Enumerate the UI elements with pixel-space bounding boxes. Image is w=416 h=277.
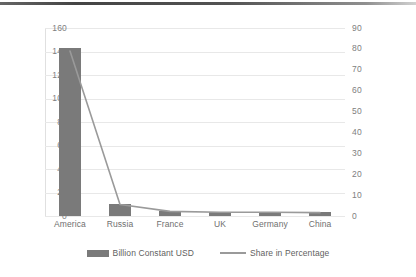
x-axis-tick-label: China (295, 219, 345, 229)
right-axis-tick-label: 30 (352, 148, 392, 158)
right-axis-tick-label: 80 (352, 43, 392, 53)
x-axis-tick-label: Russia (95, 219, 145, 229)
line-series-share-in-percentage (45, 28, 345, 216)
legend-item-billion-constant-usd: Billion Constant USD (87, 248, 194, 258)
right-axis-tick-label: 60 (352, 85, 392, 95)
bar-swatch-icon (87, 250, 109, 257)
right-axis-tick-label: 40 (352, 127, 392, 137)
legend-item-share-in-percentage: Share in Percentage (220, 248, 329, 258)
gridline (45, 216, 345, 217)
legend-label: Billion Constant USD (113, 248, 194, 258)
right-axis-tick-label: 70 (352, 64, 392, 74)
x-axis-tick-label: France (145, 219, 195, 229)
x-axis-tick-label: UK (195, 219, 245, 229)
right-axis-tick-label: 90 (352, 23, 392, 33)
legend-label: Share in Percentage (250, 248, 329, 258)
x-axis-tick-label: America (45, 219, 95, 229)
plot-area (45, 28, 345, 216)
chart-legend: Billion Constant USD Share in Percentage (0, 248, 416, 258)
right-axis-tick-label: 10 (352, 190, 392, 200)
line-swatch-icon (220, 252, 246, 254)
right-axis-tick-label: 20 (352, 169, 392, 179)
chart-figure: 020406080100120140160 010203040506070809… (0, 0, 416, 277)
x-axis-tick-label: Germany (245, 219, 295, 229)
right-axis-tick-label: 50 (352, 106, 392, 116)
right-axis-tick-label: 0 (352, 211, 392, 221)
